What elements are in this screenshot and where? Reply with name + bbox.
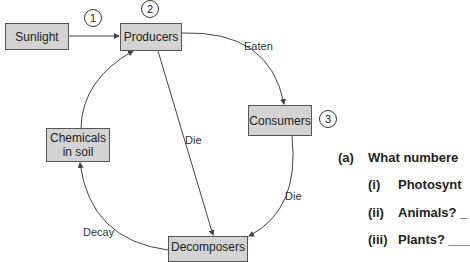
question-i-number: (i) bbox=[368, 177, 398, 192]
arrow-consumers-decomposers bbox=[249, 136, 293, 236]
marker-1-label: 1 bbox=[90, 12, 96, 24]
marker-3-label: 3 bbox=[325, 113, 331, 125]
question-ii-number: (ii) bbox=[368, 205, 398, 220]
node-producers-label: Producers bbox=[124, 30, 179, 44]
node-consumers-label: Consumers bbox=[249, 114, 310, 128]
edge-label-die-consumers: Die bbox=[285, 190, 302, 202]
marker-2: 2 bbox=[141, 0, 159, 18]
edge-label-decay: Decay bbox=[83, 226, 114, 238]
edge-label-eaten: Eaten bbox=[244, 40, 273, 52]
marker-3: 3 bbox=[319, 110, 337, 128]
question-iii: (iii)Plants? ___ bbox=[368, 232, 470, 247]
node-consumers: Consumers bbox=[248, 105, 312, 136]
question-iii-number: (iii) bbox=[368, 232, 398, 247]
question-i: (i)Photosynt bbox=[368, 177, 462, 192]
node-chemicals-label-line1: Chemicals bbox=[50, 131, 106, 145]
node-sunlight: Sunlight bbox=[5, 23, 69, 50]
edge-label-die-producers: Die bbox=[185, 134, 202, 146]
marker-2-label: 2 bbox=[147, 3, 153, 15]
question-a-number: (a) bbox=[338, 150, 368, 165]
question-ii-text: Animals? _ bbox=[398, 205, 467, 220]
arrow-chemicals-producers bbox=[81, 51, 133, 128]
question-a: (a)What numbere bbox=[338, 150, 458, 165]
node-sunlight-label: Sunlight bbox=[15, 30, 58, 44]
node-chemicals-label-line2: in soil bbox=[63, 145, 94, 159]
node-decomposers: Decomposers bbox=[168, 236, 248, 262]
question-ii: (ii)Animals? _ bbox=[368, 205, 467, 220]
node-decomposers-label: Decomposers bbox=[171, 240, 245, 254]
question-a-text: What numbere bbox=[368, 150, 458, 165]
question-i-text: Photosynt bbox=[398, 177, 462, 192]
node-chemicals-in-soil: Chemicals in soil bbox=[46, 128, 110, 162]
marker-1: 1 bbox=[84, 9, 102, 27]
question-iii-text: Plants? ___ bbox=[398, 232, 470, 247]
node-producers: Producers bbox=[120, 23, 182, 51]
